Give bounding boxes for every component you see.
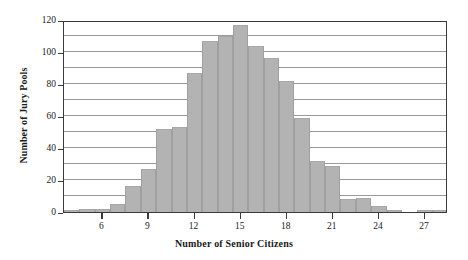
bar xyxy=(248,46,263,212)
bar xyxy=(64,210,79,212)
bar xyxy=(279,81,294,212)
x-tick-label: 15 xyxy=(228,221,252,231)
x-axis-title: Number of Senior Citizens xyxy=(0,238,468,249)
bar xyxy=(95,209,110,212)
bar xyxy=(340,199,355,212)
bar xyxy=(417,210,432,212)
x-tick-mark xyxy=(424,213,425,219)
bar xyxy=(325,166,340,212)
x-tick-label: 21 xyxy=(320,221,344,231)
x-tick-mark xyxy=(378,213,379,219)
bar xyxy=(433,210,447,212)
y-tick-label: 20 xyxy=(22,175,56,185)
bar xyxy=(356,198,371,212)
y-tick-label: 80 xyxy=(22,79,56,89)
x-tick-label: 27 xyxy=(412,221,436,231)
histogram-figure: Number of Jury Pools 020406080100120 691… xyxy=(0,0,468,260)
x-tick-mark xyxy=(194,213,195,219)
x-tick-mark xyxy=(101,213,102,219)
y-tick-label: 100 xyxy=(22,47,56,57)
bar xyxy=(156,129,171,212)
bar xyxy=(371,206,386,212)
bar xyxy=(264,58,279,212)
y-tick-label: 0 xyxy=(22,207,56,217)
gridline xyxy=(64,35,446,36)
bar xyxy=(79,209,94,212)
bar xyxy=(294,118,309,212)
x-tick-mark xyxy=(286,213,287,219)
bar xyxy=(141,169,156,212)
bar xyxy=(187,73,202,212)
x-tick-label: 9 xyxy=(135,221,159,231)
y-tick-label: 60 xyxy=(22,111,56,121)
x-tick-label: 24 xyxy=(366,221,390,231)
x-tick-mark xyxy=(147,213,148,219)
y-tick-label: 120 xyxy=(22,15,56,25)
bar xyxy=(172,127,187,212)
x-tick-label: 12 xyxy=(182,221,206,231)
bar xyxy=(110,204,125,212)
x-tick-mark xyxy=(332,213,333,219)
y-tick-label: 40 xyxy=(22,143,56,153)
bar xyxy=(202,41,217,212)
bar xyxy=(233,25,248,212)
bar xyxy=(387,210,402,212)
plot-area xyxy=(63,21,447,213)
bar xyxy=(218,36,233,212)
x-tick-label: 18 xyxy=(274,221,298,231)
bar xyxy=(125,186,140,212)
y-tick-mark xyxy=(58,213,63,214)
x-tick-mark xyxy=(240,213,241,219)
x-tick-label: 6 xyxy=(89,221,113,231)
bar xyxy=(310,161,325,212)
